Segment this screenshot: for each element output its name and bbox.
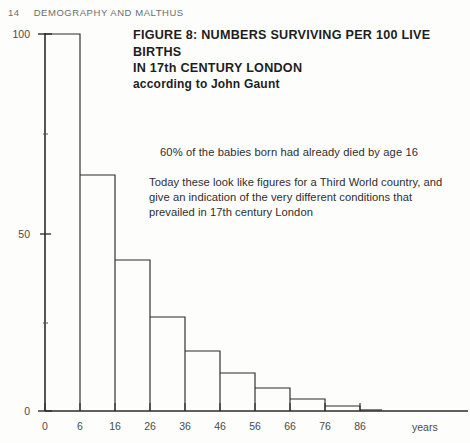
- annotation-third-world-comparison: Today these look like figures for a Thir…: [149, 175, 461, 221]
- x-axis-label-66: 66: [275, 420, 305, 432]
- bar-age-66: [290, 399, 325, 411]
- bar-age-6: [80, 175, 115, 411]
- survivorship-chart: FIGURE 8: NUMBERS SURVIVING PER 100 LIVE…: [0, 0, 470, 443]
- x-axis-unit-label: years: [412, 421, 438, 433]
- x-axis-label-0: 0: [30, 420, 60, 432]
- figure-title: FIGURE 8: NUMBERS SURVIVING PER 100 LIVE…: [133, 27, 463, 77]
- x-axis-label-46: 46: [205, 420, 235, 432]
- bar-age-46: [220, 373, 255, 411]
- bar-age-0: [45, 34, 80, 411]
- x-axis-label-36: 36: [170, 420, 200, 432]
- x-axis-label-26: 26: [135, 420, 165, 432]
- y-axis-label-100: 100: [4, 28, 30, 40]
- x-axis-label-56: 56: [240, 420, 270, 432]
- figure-title-line-2: IN 17th CENTURY LONDON: [133, 60, 463, 77]
- bar-age-26: [150, 317, 185, 411]
- figure-subtitle: according to John Gaunt: [133, 77, 280, 91]
- bar-age-16: [115, 260, 150, 411]
- annotation-mortality-by-16: 60% of the babies born had already died …: [160, 146, 418, 158]
- x-axis-label-6: 6: [65, 420, 95, 432]
- figure-title-line-1: FIGURE 8: NUMBERS SURVIVING PER 100 LIVE…: [133, 27, 463, 60]
- x-axis-label-16: 16: [100, 420, 130, 432]
- bar-age-36: [185, 351, 220, 411]
- x-axis-label-86: 86: [345, 420, 375, 432]
- bar-age-56: [255, 388, 290, 411]
- y-axis-label-0: 0: [4, 405, 30, 417]
- x-axis-label-76: 76: [310, 420, 340, 432]
- book-page: 14 DEMOGRAPHY AND MALTHUS: [0, 0, 470, 443]
- y-axis-label-50: 50: [4, 228, 30, 240]
